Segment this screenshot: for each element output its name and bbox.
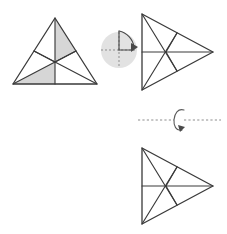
flipped-triangle-group [142,148,213,224]
rotated-midsegment-top [166,33,177,52]
flip-icon-arrowhead [178,125,185,132]
source-shaded-sector-top-right [55,18,76,62]
transformation-diagram [0,0,227,234]
figure-canvas [0,0,227,234]
rotated-triangle-group [142,14,213,90]
flipped-midsegment-top [166,167,177,186]
source-triangle-group [13,18,97,84]
source-midsegment-left [34,51,55,62]
rotate-90-clockwise-icon [101,31,138,68]
flipped-midsegment-bottom [166,186,177,205]
flip-horizontal-axis-icon [138,110,221,132]
rotated-midsegment-bottom [166,52,177,71]
